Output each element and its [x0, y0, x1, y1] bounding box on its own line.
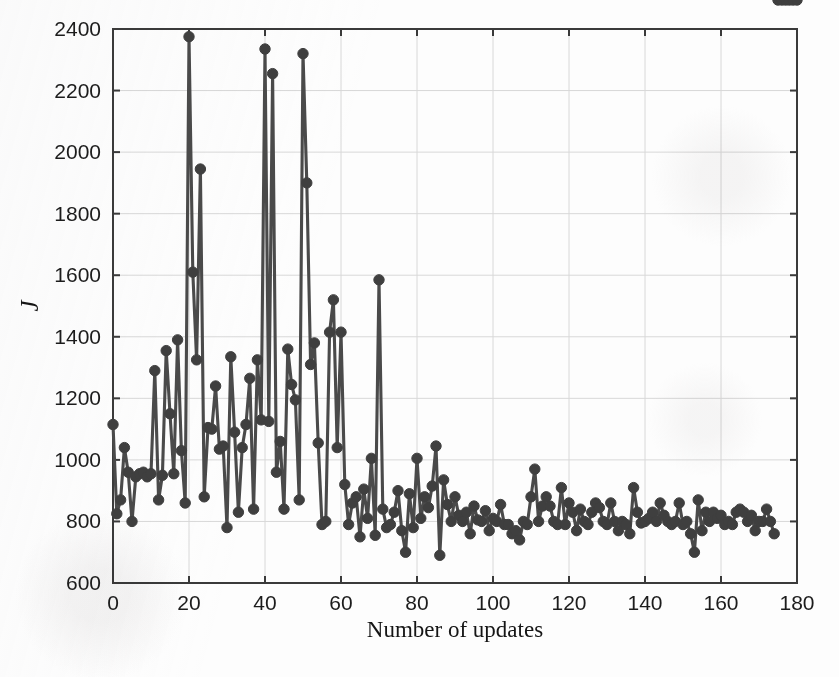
data-point-marker [408, 522, 418, 532]
data-point-marker [355, 532, 365, 542]
data-point-marker [252, 355, 262, 365]
data-point-marker [146, 469, 156, 479]
data-point-marker [150, 365, 160, 375]
data-point-marker [188, 267, 198, 277]
data-point-marker [222, 522, 232, 532]
data-point-marker [560, 519, 570, 529]
x-axis-tick-labels: 020406080100120140160180 [107, 591, 814, 614]
data-point-marker [530, 464, 540, 474]
data-point-marker [632, 507, 642, 517]
data-point-marker [298, 48, 308, 58]
y-tick-label: 1400 [54, 325, 101, 348]
data-point-marker [248, 504, 258, 514]
data-point-marker [290, 395, 300, 405]
figure-canvas: 020406080100120140160180 600800100012001… [0, 0, 839, 677]
data-point-marker [275, 436, 285, 446]
data-point-marker [514, 535, 524, 545]
data-point-marker [393, 485, 403, 495]
data-point-marker [229, 427, 239, 437]
data-point-marker [370, 530, 380, 540]
data-point-marker [153, 495, 163, 505]
data-point-marker [161, 345, 171, 355]
data-point-marker [583, 519, 593, 529]
data-point-marker [556, 482, 566, 492]
data-point-marker [682, 516, 692, 526]
data-point-marker [324, 327, 334, 337]
data-point-marker [115, 495, 125, 505]
data-point-marker [313, 438, 323, 448]
y-tick-label: 1000 [54, 448, 101, 471]
data-point-marker [302, 178, 312, 188]
data-point-marker [271, 467, 281, 477]
data-point-marker [397, 525, 407, 535]
data-point-marker [233, 507, 243, 517]
data-point-marker [526, 492, 536, 502]
data-point-marker [237, 442, 247, 452]
y-tick-label: 2400 [54, 17, 101, 40]
data-point-marker [450, 492, 460, 502]
data-point-marker [283, 344, 293, 354]
data-point-marker [340, 479, 350, 489]
data-point-marker [226, 352, 236, 362]
x-tick-label: 0 [107, 591, 119, 614]
data-point-marker [157, 470, 167, 480]
y-tick-label: 2000 [54, 140, 101, 163]
x-tick-label: 80 [405, 591, 428, 614]
chart-plot: 020406080100120140160180 600800100012001… [0, 0, 839, 677]
data-point-marker [309, 338, 319, 348]
data-point-marker [674, 498, 684, 508]
data-point-marker [412, 453, 422, 463]
data-point-marker [655, 498, 665, 508]
data-point-marker [571, 525, 581, 535]
data-point-marker [286, 379, 296, 389]
y-axis-title: J [16, 299, 43, 312]
data-point-marker [374, 275, 384, 285]
data-point-marker [465, 529, 475, 539]
data-point-marker [210, 381, 220, 391]
data-point-marker [438, 475, 448, 485]
data-point-marker [522, 519, 532, 529]
data-point-marker [533, 516, 543, 526]
data-point-marker [245, 373, 255, 383]
data-point-marker [761, 504, 771, 514]
data-point-marker [389, 507, 399, 517]
data-point-marker [267, 68, 277, 78]
data-point-marker [176, 445, 186, 455]
data-point-marker [321, 516, 331, 526]
x-tick-label: 60 [329, 591, 352, 614]
data-point-marker [545, 501, 555, 511]
data-point-marker [305, 359, 315, 369]
data-point-marker [218, 441, 228, 451]
data-point-marker [697, 525, 707, 535]
data-point-marker [594, 502, 604, 512]
data-point-marker [404, 489, 414, 499]
data-point-marker [423, 502, 433, 512]
data-point-marker [769, 529, 779, 539]
data-point-marker [165, 409, 175, 419]
data-point-marker [625, 529, 635, 539]
data-point-marker [575, 504, 585, 514]
x-tick-label: 100 [475, 591, 510, 614]
y-tick-label: 600 [66, 571, 101, 594]
data-point-marker [328, 295, 338, 305]
data-point-marker [127, 516, 137, 526]
data-point-marker [606, 498, 616, 508]
x-tick-label: 40 [253, 591, 276, 614]
data-point-marker [400, 547, 410, 557]
data-point-marker [469, 501, 479, 511]
data-point-marker [343, 519, 353, 529]
data-point-marker [199, 492, 209, 502]
y-tick-label: 1800 [54, 202, 101, 225]
data-point-marker [195, 164, 205, 174]
data-point-marker [279, 504, 289, 514]
data-point-marker [693, 495, 703, 505]
data-point-marker [727, 519, 737, 529]
data-point-marker [435, 550, 445, 560]
data-point-marker [207, 424, 217, 434]
data-point-marker [241, 419, 251, 429]
x-tick-label: 160 [703, 591, 738, 614]
x-tick-label: 180 [779, 591, 814, 614]
data-point-marker [184, 31, 194, 41]
x-tick-label: 20 [177, 591, 200, 614]
data-point-marker [689, 547, 699, 557]
